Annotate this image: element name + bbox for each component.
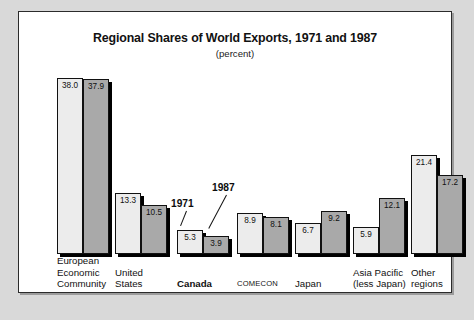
bar-body (83, 79, 109, 254)
bar-group: 5.33.9Canada (177, 12, 232, 294)
bar-pair: 5.33.9 (177, 54, 232, 254)
bar-1987[interactable]: 3.9 (203, 236, 229, 254)
bar-value-label: 5.3 (177, 233, 203, 242)
bar-group: 38.037.9EuropeanEconomicCommunity (57, 12, 112, 294)
bar-value-label: 21.4 (411, 158, 437, 167)
bar-pair: 6.79.2 (295, 54, 350, 254)
bar-1971[interactable]: 5.9 (353, 227, 379, 254)
bar-group: 13.310.5UnitedStates (115, 12, 170, 294)
bar-1971[interactable]: 21.4 (411, 155, 437, 254)
bar-1987[interactable]: 12.1 (379, 198, 405, 254)
bar-group: 5.912.1Asia Pacific(less Japan) (353, 12, 408, 294)
callout-1987: 1987 (212, 182, 235, 193)
bar-value-label: 5.9 (353, 230, 379, 239)
bar-value-label: 13.3 (115, 196, 141, 205)
category-label: UnitedStates (115, 267, 185, 290)
bar-1971[interactable]: 8.9 (237, 213, 263, 254)
category-label-line: United (115, 267, 185, 279)
chart-panel: Regional Shares of World Exports, 1971 a… (18, 11, 452, 293)
category-label-line: regions (411, 278, 474, 290)
bar-value-label: 6.7 (295, 226, 321, 235)
bar-1971[interactable]: 5.3 (177, 230, 203, 254)
bar-1971[interactable]: 6.7 (295, 223, 321, 254)
bar-1987[interactable]: 10.5 (141, 205, 167, 254)
bar-1987[interactable]: 9.2 (321, 211, 347, 254)
bar-value-label: 38.0 (57, 81, 83, 90)
bar-1987[interactable]: 17.2 (437, 175, 463, 254)
bar-pair: 13.310.5 (115, 54, 170, 254)
bar-value-label: 3.9 (203, 239, 229, 248)
bar-body (411, 155, 437, 254)
bar-1987[interactable]: 37.9 (83, 79, 109, 254)
bar-value-label: 9.2 (321, 214, 347, 223)
bar-1971[interactable]: 38.0 (57, 78, 83, 254)
bar-group: 21.417.2Otherregions (411, 12, 466, 294)
category-label-line: States (115, 278, 185, 290)
bar-1971[interactable]: 13.3 (115, 193, 141, 254)
bar-pair: 21.417.2 (411, 54, 466, 254)
bar-1987[interactable]: 8.1 (263, 217, 289, 254)
callout-1971: 1971 (171, 198, 194, 209)
bar-value-label: 12.1 (379, 201, 405, 210)
bar-pair: 8.98.1 (237, 54, 292, 254)
bar-value-label: 10.5 (141, 208, 167, 217)
bar-pair: 5.912.1 (353, 54, 408, 254)
bar-group: 6.79.2Japan (295, 12, 350, 294)
bar-value-label: 8.1 (263, 220, 289, 229)
bar-body (57, 78, 83, 254)
category-label-line: Other (411, 267, 474, 279)
bar-value-label: 37.9 (83, 82, 109, 91)
bar-value-label: 17.2 (437, 178, 463, 187)
bar-value-label: 8.9 (237, 216, 263, 225)
bar-group: 8.98.1COMECON (237, 12, 292, 294)
bar-pair: 38.037.9 (57, 54, 112, 254)
category-label: Otherregions (411, 267, 474, 290)
plot-area: 38.037.9EuropeanEconomicCommunity13.310.… (19, 12, 453, 294)
